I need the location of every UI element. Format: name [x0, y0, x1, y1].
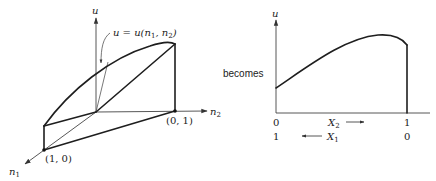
- base-edge: [44, 111, 175, 150]
- tick-x2-0: 0: [273, 117, 279, 128]
- x1-label: X1: [326, 131, 339, 144]
- figure: u n2 n1 (0, 1) (1, 0) u = u(n1, n2) beco…: [0, 0, 436, 181]
- n2-axis-label: n2: [210, 106, 221, 119]
- tick-x2-1: 1: [404, 117, 410, 128]
- right-curve: [276, 35, 407, 88]
- surface-edge-n2: [96, 44, 175, 112]
- tick-x1-1: 1: [273, 131, 279, 142]
- point-0-1-label: (0, 1): [166, 115, 193, 126]
- figure-svg: u n2 n1 (0, 1) (1, 0) u = u(n1, n2) beco…: [0, 0, 436, 181]
- point-1-0-label: (1, 0): [45, 153, 72, 164]
- n1-axis-label: n1: [9, 166, 20, 179]
- n2-axis: [96, 111, 207, 112]
- leader-arrow: [101, 33, 110, 63]
- left-diagram: u n2 n1 (0, 1) (1, 0) u = u(n1, n2): [9, 5, 221, 179]
- u-axis-label: u: [92, 5, 98, 16]
- right-diagram: u 0 1 1 0 X2 X1: [272, 8, 430, 144]
- surface-edge-n1: [44, 112, 96, 126]
- point-1-0: [42, 148, 46, 152]
- point-0-1: [173, 109, 177, 113]
- surface-curve: [44, 42, 175, 126]
- x2-label: X2: [327, 117, 340, 130]
- tick-x1-0: 0: [404, 131, 410, 142]
- becomes-label: becomes: [223, 68, 264, 79]
- right-u-axis-label: u: [272, 8, 278, 19]
- function-label: u = u(n1, n2): [113, 27, 177, 40]
